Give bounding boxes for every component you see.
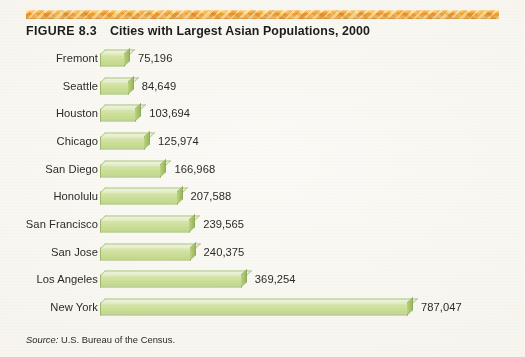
bar-front-face <box>100 81 129 94</box>
category-label: San Jose <box>51 246 98 258</box>
chart-row: San Jose240,375 <box>0 238 525 266</box>
chart-row: Chicago125,974 <box>0 127 525 155</box>
rule-shading <box>26 10 499 19</box>
source-note: Source: U.S. Bureau of the Census. <box>26 334 175 345</box>
bar <box>100 49 130 66</box>
bar <box>100 271 247 288</box>
bar-top-face <box>100 299 418 304</box>
chart-row: Honolulu207,588 <box>0 182 525 210</box>
bar-value-label: 239,565 <box>203 218 244 230</box>
chart-row: New York787,047 <box>0 293 525 321</box>
figure-container: FIGURE 8.3Cities with Largest Asian Popu… <box>0 0 525 357</box>
bar-front-face <box>100 136 145 149</box>
bar-front-face <box>100 303 408 316</box>
chart-row: Los Angeles369,254 <box>0 266 525 294</box>
bar-top-face <box>100 188 188 193</box>
bar <box>100 215 195 232</box>
bar-chart-plot: Fremont75,196Seattle84,649Houston103,694… <box>0 44 525 322</box>
bar-front-face <box>100 192 178 205</box>
source-label: Source: <box>26 334 58 345</box>
figure-heading: FIGURE 8.3Cities with Largest Asian Popu… <box>26 24 370 38</box>
category-label: Los Angeles <box>36 273 98 285</box>
bar-front-face <box>100 164 161 177</box>
category-label: San Francisco <box>26 218 98 230</box>
bar-value-label: 240,375 <box>204 246 245 258</box>
bar-value-label: 369,254 <box>255 273 296 285</box>
bar-front-face <box>100 219 190 232</box>
bar <box>100 105 141 122</box>
bar-end-cap <box>135 103 141 121</box>
figure-number: FIGURE 8.3 <box>26 24 97 38</box>
chart-row: Seattle84,649 <box>0 72 525 100</box>
bar-end-cap <box>144 131 150 149</box>
bar-front-face <box>100 275 242 288</box>
bar-value-label: 207,588 <box>191 190 232 202</box>
bar <box>100 77 134 94</box>
category-label: Seattle <box>63 80 98 92</box>
bar <box>100 188 183 205</box>
bar-front-face <box>100 109 136 122</box>
bar-top-face <box>100 243 201 248</box>
rule-band <box>26 10 499 19</box>
bar-top-face <box>100 271 252 276</box>
category-label: Chicago <box>57 135 98 147</box>
bar-front-face <box>100 247 191 260</box>
bar-top-face <box>100 215 200 220</box>
bar-value-label: 75,196 <box>138 52 173 64</box>
bar <box>100 132 150 149</box>
chart-row: Fremont75,196 <box>0 44 525 72</box>
bar-end-cap <box>189 214 195 232</box>
chart-row: San Diego166,968 <box>0 155 525 183</box>
category-label: Fremont <box>56 52 98 64</box>
category-label: Houston <box>56 107 98 119</box>
category-label: New York <box>50 301 98 313</box>
source-text: U.S. Bureau of the Census. <box>61 334 175 345</box>
figure-title: Cities with Largest Asian Populations, 2… <box>110 24 370 38</box>
bar-value-label: 84,649 <box>142 80 177 92</box>
category-label: Honolulu <box>53 190 98 202</box>
category-label: San Diego <box>45 163 98 175</box>
bar <box>100 160 166 177</box>
bar-value-label: 103,694 <box>149 107 190 119</box>
bar-front-face <box>100 53 125 66</box>
bar <box>100 299 413 316</box>
bar-end-cap <box>407 297 413 315</box>
chart-row: San Francisco239,565 <box>0 210 525 238</box>
decorative-chevron-rule <box>26 10 499 19</box>
bar-value-label: 166,968 <box>174 163 215 175</box>
bar-end-cap <box>241 269 247 287</box>
bar-value-label: 787,047 <box>421 301 462 313</box>
bar <box>100 243 196 260</box>
bar-value-label: 125,974 <box>158 135 199 147</box>
chart-row: Houston103,694 <box>0 99 525 127</box>
